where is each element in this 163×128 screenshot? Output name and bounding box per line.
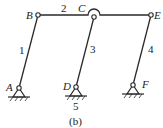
joint-label-c: C [78,2,86,14]
joint-e [149,13,153,17]
link-label-1: 1 [19,44,25,56]
joint-b [36,13,40,17]
link-label-4: 4 [148,43,154,55]
joint-f [131,83,135,87]
joint-c [92,15,96,19]
joint-a [17,86,21,90]
joint-label-d: D [62,80,71,92]
joint-label-f: F [141,78,149,90]
joint-label-a: A [5,81,13,93]
joint-label-e: E [153,9,161,21]
link-label-2: 2 [61,2,67,14]
joint-d [74,85,78,89]
joint-label-b: B [26,9,33,21]
linkage-diagram: A B C D E F 1 2 3 4 5 (b) [0,0,163,128]
link-label-5: 5 [73,100,79,112]
link-label-3: 3 [90,43,96,55]
figure-caption: (b) [69,115,82,128]
link-2 [38,9,151,15]
